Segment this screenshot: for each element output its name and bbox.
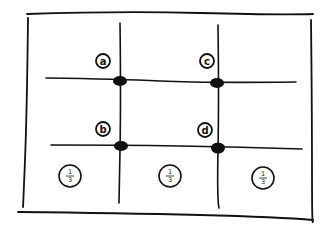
frame-top xyxy=(27,12,313,14)
intersection-dot-a xyxy=(113,76,127,86)
horizontal-line-2 xyxy=(51,145,302,149)
label-b-text: b xyxy=(99,124,106,135)
fraction-numerator: 1 xyxy=(68,168,72,176)
label-a-text: a xyxy=(100,56,107,67)
frame-right xyxy=(311,20,313,222)
label-c-text: c xyxy=(204,56,210,67)
label-d: d xyxy=(198,123,212,137)
fraction-numerator: 1 xyxy=(261,170,265,178)
third-marker-3: 1 3 xyxy=(252,167,274,189)
fraction-numerator: 1 xyxy=(168,168,172,176)
intersection-dot-d xyxy=(211,143,225,154)
frame xyxy=(18,12,313,222)
third-marker-1: 1 3 xyxy=(59,165,81,187)
label-b: b xyxy=(96,122,110,136)
fraction-denominator: 3 xyxy=(168,176,172,184)
rule-of-thirds-diagram: a c b d 1 3 1 3 1 3 xyxy=(0,0,328,229)
frame-bottom xyxy=(18,212,313,220)
vertical-line-1 xyxy=(119,23,121,203)
label-d-text: d xyxy=(201,125,208,136)
intersection-points xyxy=(113,76,225,154)
fraction-denominator: 3 xyxy=(261,178,265,186)
third-marker-2: 1 3 xyxy=(159,165,181,187)
label-c: c xyxy=(200,54,214,68)
frame-left xyxy=(23,18,28,207)
intersection-dot-b xyxy=(114,141,128,151)
horizontal-line-1 xyxy=(46,78,296,82)
intersection-dot-c xyxy=(210,78,224,88)
fraction-denominator: 3 xyxy=(68,176,72,184)
label-a: a xyxy=(96,54,110,68)
vertical-line-2 xyxy=(218,25,219,208)
